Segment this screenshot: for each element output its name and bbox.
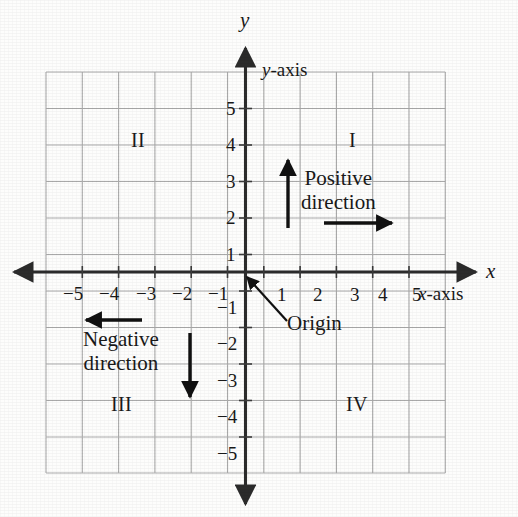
x-tick-label-neg2: −2 bbox=[172, 284, 192, 303]
y-tick-label-4: 4 bbox=[226, 135, 236, 154]
x-tick-label-5: 5 bbox=[412, 285, 422, 304]
y-tick-label-neg3: −3 bbox=[217, 371, 237, 390]
quadrant-label-i: I bbox=[349, 130, 356, 150]
quadrant-label-iv: IV bbox=[346, 394, 368, 414]
x-tick-label-2: 2 bbox=[313, 285, 323, 304]
x-axis-name-suffix: -axis bbox=[426, 283, 463, 304]
x-axis-name-label: x-axis bbox=[418, 284, 463, 303]
y-tick-label-neg4: −4 bbox=[217, 407, 237, 426]
y-tick-label-3: 3 bbox=[226, 172, 236, 191]
x-tick-label-neg3: −3 bbox=[136, 284, 156, 303]
negative-direction-line2: direction bbox=[83, 352, 159, 376]
y-tick-label-neg2: −2 bbox=[217, 334, 237, 353]
x-tick-label-3: 3 bbox=[350, 285, 360, 304]
x-tick-label-neg4: −4 bbox=[99, 284, 119, 303]
y-tick-label-5: 5 bbox=[226, 99, 236, 118]
coordinate-plane-svg bbox=[0, 0, 518, 517]
y-tick-label-2: 2 bbox=[226, 208, 236, 227]
negative-direction-line1: Negative bbox=[83, 328, 159, 352]
x-tick-label-1: 1 bbox=[277, 285, 287, 304]
y-axis-name-label: y-axis bbox=[262, 60, 307, 79]
positive-direction-line2: direction bbox=[301, 191, 376, 215]
positive-direction-annotation: Positive direction bbox=[301, 167, 376, 214]
x-axis-tip-label: x bbox=[486, 261, 495, 282]
quadrant-label-ii: II bbox=[131, 130, 145, 150]
y-axis-name-suffix: -axis bbox=[270, 59, 307, 80]
x-tick-label-neg5: −5 bbox=[63, 284, 83, 303]
y-tick-label-1: 1 bbox=[226, 245, 236, 264]
positive-direction-line1: Positive bbox=[301, 167, 376, 191]
x-tick-label-4: 4 bbox=[378, 285, 388, 304]
coordinate-plane-figure: y x y-axis x-axis −5 −4 −3 −2 −1 1 2 3 4… bbox=[0, 0, 518, 517]
negative-direction-annotation: Negative direction bbox=[83, 328, 159, 375]
quadrant-label-iii: III bbox=[111, 394, 132, 414]
origin-label: Origin bbox=[287, 313, 342, 334]
y-tick-label-neg1: −1 bbox=[217, 298, 237, 317]
y-tick-label-neg5: −5 bbox=[217, 444, 237, 463]
y-axis-tip-label: y bbox=[240, 10, 249, 31]
